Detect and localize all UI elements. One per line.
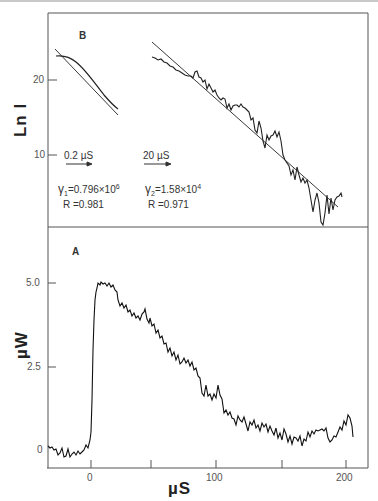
gamma2-value: =1.58×10	[155, 184, 197, 195]
ytick-b-10: 10	[34, 149, 45, 160]
panel-a-ylabel: µW	[12, 327, 32, 363]
signal-trace	[48, 282, 353, 457]
xtick-a-100: 100	[206, 472, 223, 483]
r1-annotation: R =0.981	[63, 199, 104, 210]
panel-a-letter: A	[72, 246, 79, 257]
figure-canvas	[0, 0, 378, 501]
panel-b-yticks	[48, 80, 57, 155]
figure-frame	[47, 13, 368, 468]
ytick-a-0: 0	[37, 444, 43, 455]
scale-bar-20us	[144, 162, 171, 166]
ytick-b-20: 20	[33, 74, 44, 85]
panel-a-xticks	[91, 460, 346, 468]
gamma1-value: =0.796×10	[68, 184, 116, 195]
panel-b-late-decay	[152, 42, 342, 225]
r1-label: R	[63, 199, 70, 210]
panel-b-early-decay	[55, 49, 118, 115]
ytick-a-5.0: 5.0	[26, 277, 40, 288]
fit-line-gamma1	[55, 49, 118, 115]
panel-a-yticks	[48, 283, 56, 367]
scale-bar-label-1: 0.2 µS	[64, 150, 93, 161]
xtick-a-200: 200	[336, 472, 353, 483]
panel-b-letter: B	[79, 30, 86, 41]
xtick-a-0: 0	[87, 472, 93, 483]
scale-bar-0.2us	[66, 162, 92, 166]
gamma2-annotation: γ2=1.58×104	[145, 182, 201, 197]
r1-value: =0.981	[73, 199, 104, 210]
panel-a-signal	[48, 282, 353, 457]
scale-bar-label-2: 20 µS	[143, 150, 169, 161]
panel-a-xlabel: µS	[168, 479, 191, 499]
panel-b-ylabel: Ln I	[11, 102, 31, 138]
gamma2-exponent: 4	[197, 183, 201, 190]
gamma1-annotation: γ1=0.796×106	[58, 182, 120, 197]
r2-label: R	[148, 199, 155, 210]
r2-annotation: R =0.971	[148, 199, 189, 210]
r2-value: =0.971	[158, 199, 189, 210]
gamma1-exponent: 6	[116, 183, 120, 190]
